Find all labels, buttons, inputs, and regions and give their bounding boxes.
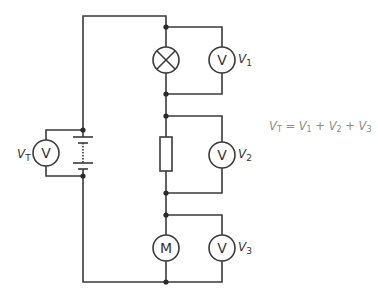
circuit-diagram: V VT V V1 V V2 M V V3	[0, 0, 378, 308]
voltage-sum-equation: VT = V1 + V2 + V3	[269, 119, 372, 134]
resistor	[160, 137, 172, 171]
lamp	[153, 47, 179, 73]
voltmeter-symbol: V	[217, 52, 227, 68]
motor: M	[153, 235, 179, 261]
voltmeter-symbol: V	[217, 240, 227, 256]
v2-label: V2	[238, 147, 252, 163]
voltmeter-v2: V V2	[166, 116, 252, 193]
vt-label: VT	[17, 147, 31, 163]
v3-label: V3	[238, 240, 252, 256]
motor-symbol: M	[160, 240, 172, 256]
v1-label: V1	[238, 52, 252, 68]
battery	[73, 130, 93, 176]
voltmeter-symbol: V	[41, 145, 51, 161]
voltmeter-symbol: V	[217, 147, 227, 163]
